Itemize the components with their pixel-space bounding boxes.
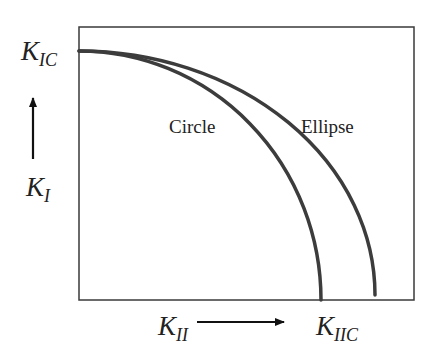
ellipse-label: Ellipse [301, 116, 354, 137]
x-axis-label: KII [157, 311, 189, 345]
circle-curve [79, 51, 321, 300]
x-intercept-label: KIIC [315, 311, 359, 345]
plot-frame [79, 27, 414, 300]
circle-label: Circle [169, 116, 215, 137]
y-intercept-label: KIC [20, 36, 58, 70]
y-axis-label: KI [25, 172, 51, 206]
ellipse-curve [79, 51, 375, 295]
failure-envelope-diagram: Circle Ellipse KIC KI KII KIIC [0, 0, 438, 353]
